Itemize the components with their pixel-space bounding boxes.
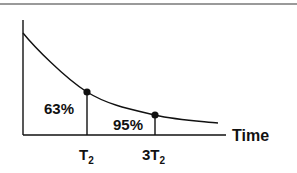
3t2-tick-label: 3T2 bbox=[142, 146, 166, 166]
3t2-point bbox=[151, 111, 158, 118]
decay-diagram: 63% 95% T2 3T2 Time bbox=[0, 0, 297, 173]
3t2-tick-main: T bbox=[150, 146, 159, 163]
3t2-tick-sub: 2 bbox=[160, 155, 166, 166]
x-axis-label: Time bbox=[232, 127, 269, 144]
3t2-tick-prefix: 3 bbox=[142, 146, 150, 163]
t2-tick-main: T bbox=[79, 146, 88, 163]
t2-point bbox=[83, 88, 90, 95]
3t2-percent-label: 95% bbox=[113, 116, 143, 133]
t2-tick-sub: 2 bbox=[88, 155, 94, 166]
t2-percent-label: 63% bbox=[44, 100, 74, 117]
t2-tick-label: T2 bbox=[79, 146, 94, 166]
